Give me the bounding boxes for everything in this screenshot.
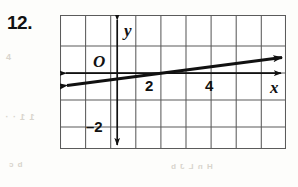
y-tick-label-minus-2: –2 (86, 118, 103, 135)
coordinate-plane: y O x 2 4 –2 (60, 15, 286, 149)
bleed-mark: H n L J b (170, 162, 213, 171)
x-tick-label-2: 2 (145, 77, 153, 94)
problem-number: 12. (7, 12, 32, 34)
x-tick-label-4: 4 (205, 77, 214, 94)
bleed-mark: 1 1 · · (4, 112, 35, 122)
bleed-mark: b c (8, 160, 23, 169)
x-axis-label: x (269, 78, 279, 97)
y-axis-label: y (122, 21, 132, 40)
origin-label: O (93, 52, 105, 71)
bleed-mark: 4 (6, 52, 12, 62)
textbook-problem-figure: 4 1 1 · · b c H n L J b S a 12. (0, 0, 298, 187)
